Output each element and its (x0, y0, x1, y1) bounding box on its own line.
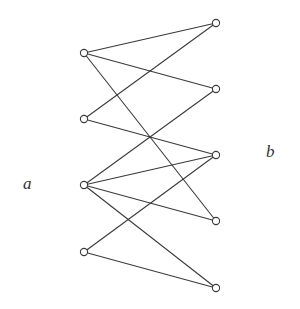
edge-L3-R2 (84, 89, 216, 185)
right-node-r5 (212, 284, 219, 291)
left-partition-label: a (23, 175, 32, 192)
edges-group (84, 23, 216, 288)
edge-L3-R5 (84, 185, 216, 288)
left-node-l4 (80, 248, 87, 255)
left-node-l3 (80, 181, 87, 188)
edge-L2-R1 (84, 23, 216, 119)
right-node-r4 (212, 217, 219, 224)
nodes-group (80, 19, 219, 291)
right-node-r1 (212, 19, 219, 26)
edge-L4-R5 (84, 252, 216, 288)
left-node-l1 (80, 49, 87, 56)
right-node-r2 (212, 85, 219, 92)
left-node-l2 (80, 115, 87, 122)
right-partition-label: b (266, 143, 275, 160)
right-node-r3 (212, 151, 219, 158)
bipartite-graph (0, 0, 300, 309)
